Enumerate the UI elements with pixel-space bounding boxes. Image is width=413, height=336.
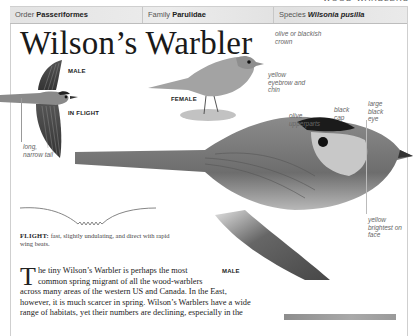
- species-label: Species: [279, 10, 306, 19]
- black-cap-annotation: black cap: [334, 106, 354, 121]
- body-line: across many areas of the western US and …: [20, 287, 290, 298]
- face-leader-line: [366, 120, 367, 214]
- flight-caption: FLIGHT: fast, slightly undulating, and d…: [20, 232, 170, 248]
- large-eye-annotation: large black eye: [368, 100, 390, 123]
- order-label: Order: [15, 10, 34, 19]
- running-head: WOOD-WARBLERS: [323, 0, 409, 3]
- male-bird-illustration: [75, 110, 413, 280]
- order-value: Passeriformes: [36, 10, 88, 19]
- body-line: range of habitats, yet their numbers are…: [20, 308, 290, 319]
- tail-leader-line: [21, 98, 22, 142]
- body-line: he tiny Wilson’s Warbler is perhaps the …: [20, 266, 290, 277]
- flight-male-label: MALE: [68, 68, 86, 74]
- female-label: FEMALE: [171, 96, 197, 102]
- taxonomy-species: Species Wilsonia pusilla: [274, 7, 407, 23]
- taxonomy-bar: Order Passeriformes Family Parulidae Spe…: [10, 6, 407, 24]
- drop-cap: T: [20, 267, 36, 287]
- crown-annotation: olive or blackish crown: [275, 30, 335, 45]
- body-line: common spring migrant of all the wood-wa…: [20, 277, 290, 288]
- body-paragraph: T he tiny Wilson’s Warbler is perhaps th…: [20, 266, 290, 319]
- flight-pattern-diagram: [18, 200, 158, 230]
- taxonomy-family: Family Parulidae: [143, 7, 274, 23]
- flight-heading: FLIGHT:: [20, 232, 49, 239]
- species-value: Wilsonia pusilla: [308, 10, 365, 19]
- eyebrow-annotation: yellow eyebrow and chin: [268, 71, 308, 94]
- family-label: Family: [148, 10, 170, 19]
- habitat-photo: [284, 314, 396, 320]
- family-value: Parulidae: [172, 10, 206, 19]
- tail-annotation: long, narrow tail: [23, 143, 53, 158]
- yellow-face-annotation: yellow brightest on face: [368, 216, 402, 239]
- taxonomy-order: Order Passeriformes: [10, 7, 143, 23]
- body-line: however, it is much scarcer in spring. W…: [20, 298, 290, 309]
- upperparts-annotation: olive upperparts: [289, 112, 329, 127]
